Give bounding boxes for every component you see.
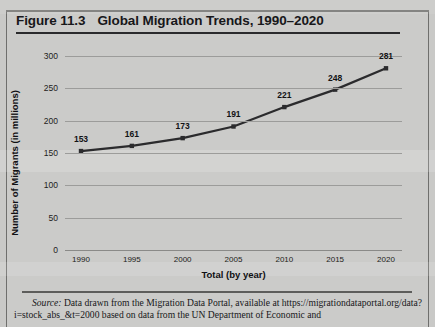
- x-tick-label-2000: 2000: [174, 255, 192, 264]
- plot-area: 0501001502002503001990199520002005201020…: [65, 56, 402, 250]
- y-tick-label-200: 200: [44, 116, 58, 126]
- data-point-2005: [231, 124, 235, 128]
- data-label-1995: 161: [125, 129, 139, 139]
- data-label-2010: 221: [277, 90, 291, 100]
- data-label-2020: 281: [379, 51, 393, 61]
- data-label-1990: 153: [74, 134, 88, 144]
- figure-title-text: Global Migration Trends, 1990–2020: [97, 13, 323, 28]
- gridline-0: [65, 250, 402, 251]
- data-point-1995: [130, 144, 134, 148]
- data-point-2000: [180, 136, 184, 140]
- gridline-300: [65, 56, 402, 57]
- data-point-2010: [282, 105, 286, 109]
- line-chart: Number of Migrants (in millions) 0501001…: [16, 44, 408, 282]
- title-divider: [16, 32, 400, 34]
- page-title: Figure 11.3Global Migration Trends, 1990…: [16, 13, 408, 28]
- x-tick-label-2015: 2015: [326, 255, 344, 264]
- figure-number: Figure 11.3: [16, 13, 85, 28]
- gridline-100: [65, 185, 402, 186]
- data-label-2015: 248: [328, 73, 342, 83]
- figure-title-block: Figure 11.3Global Migration Trends, 1990…: [16, 13, 408, 34]
- data-label-2000: 173: [176, 121, 190, 131]
- figure-page: Figure 11.3Global Migration Trends, 1990…: [0, 0, 435, 327]
- gridline-50: [65, 218, 402, 219]
- data-label-2005: 191: [226, 109, 240, 119]
- y-axis-title: Number of Migrants (in millions): [9, 90, 20, 236]
- x-tick-label-2010: 2010: [275, 255, 293, 264]
- gridline-250: [65, 88, 402, 89]
- y-tick-label-50: 50: [49, 213, 58, 223]
- x-tick-label-2020: 2020: [377, 255, 395, 264]
- x-axis-title: Total (by year): [65, 269, 402, 280]
- source-note: Source: Data drawn from the Migration Da…: [14, 297, 422, 320]
- gridline-150: [65, 153, 402, 154]
- y-tick-label-300: 300: [44, 51, 58, 61]
- source-label: Source:: [32, 297, 61, 308]
- y-tick-label-0: 0: [53, 245, 58, 255]
- data-point-2020: [384, 66, 388, 70]
- x-tick-label-2005: 2005: [225, 255, 243, 264]
- y-tick-label-100: 100: [44, 180, 58, 190]
- gridline-200: [65, 121, 402, 122]
- y-tick-label-150: 150: [44, 148, 58, 158]
- source-line-1: Data drawn from the Migration Data Porta…: [61, 297, 384, 308]
- x-tick-label-1995: 1995: [123, 255, 141, 264]
- page-top-edge: [6, 10, 429, 12]
- y-tick-label-250: 250: [44, 83, 58, 93]
- x-tick-label-1990: 1990: [72, 255, 90, 264]
- source-divider: [22, 291, 412, 293]
